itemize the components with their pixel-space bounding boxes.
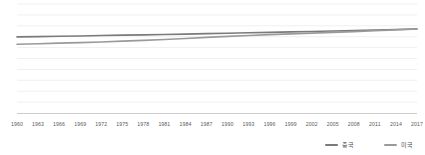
x-axis-tick-label: 1990 bbox=[222, 118, 234, 130]
legend-label: 중국 bbox=[342, 140, 354, 150]
x-axis-tick-label: 1978 bbox=[137, 118, 149, 130]
legend-swatch-icon bbox=[325, 144, 338, 146]
x-axis-tick-label: 2008 bbox=[348, 118, 360, 130]
line-chart: 1960196319661969197219751978198119841987… bbox=[0, 0, 425, 155]
legend-item-1[interactable]: 미국 bbox=[384, 140, 413, 150]
series-lines bbox=[17, 4, 417, 113]
plot-area bbox=[17, 4, 417, 113]
x-axis-tick-label: 1984 bbox=[179, 118, 191, 130]
x-axis-tick-label: 2002 bbox=[306, 118, 318, 130]
legend-item-0[interactable]: 중국 bbox=[325, 140, 354, 150]
x-axis-tick-label: 1975 bbox=[116, 118, 128, 130]
x-axis-labels: 1960196319661969197219751978198119841987… bbox=[17, 118, 417, 130]
x-axis-line bbox=[17, 113, 417, 114]
x-axis-tick-label: 2005 bbox=[327, 118, 339, 130]
x-axis-tick-label: 1960 bbox=[11, 118, 23, 130]
x-axis-tick-label: 1972 bbox=[95, 118, 107, 130]
x-axis-tick-label: 1999 bbox=[285, 118, 297, 130]
chart-legend: 중국미국 bbox=[0, 138, 425, 152]
legend-swatch-icon bbox=[384, 144, 397, 146]
x-axis-tick-label: 2014 bbox=[390, 118, 402, 130]
x-axis-tick-label: 1987 bbox=[200, 118, 212, 130]
x-axis-tick-label: 1993 bbox=[243, 118, 255, 130]
x-axis-tick-label: 1963 bbox=[32, 118, 44, 130]
legend-label: 미국 bbox=[401, 140, 413, 150]
x-axis-tick-label: 2017 bbox=[411, 118, 423, 130]
x-axis-tick-label: 1981 bbox=[158, 118, 170, 130]
x-axis-tick-label: 2011 bbox=[369, 118, 381, 130]
series-line-0 bbox=[17, 29, 417, 37]
x-axis-tick-label: 1966 bbox=[53, 118, 65, 130]
x-axis-tick-label: 1996 bbox=[264, 118, 276, 130]
x-axis-tick-label: 1969 bbox=[74, 118, 86, 130]
